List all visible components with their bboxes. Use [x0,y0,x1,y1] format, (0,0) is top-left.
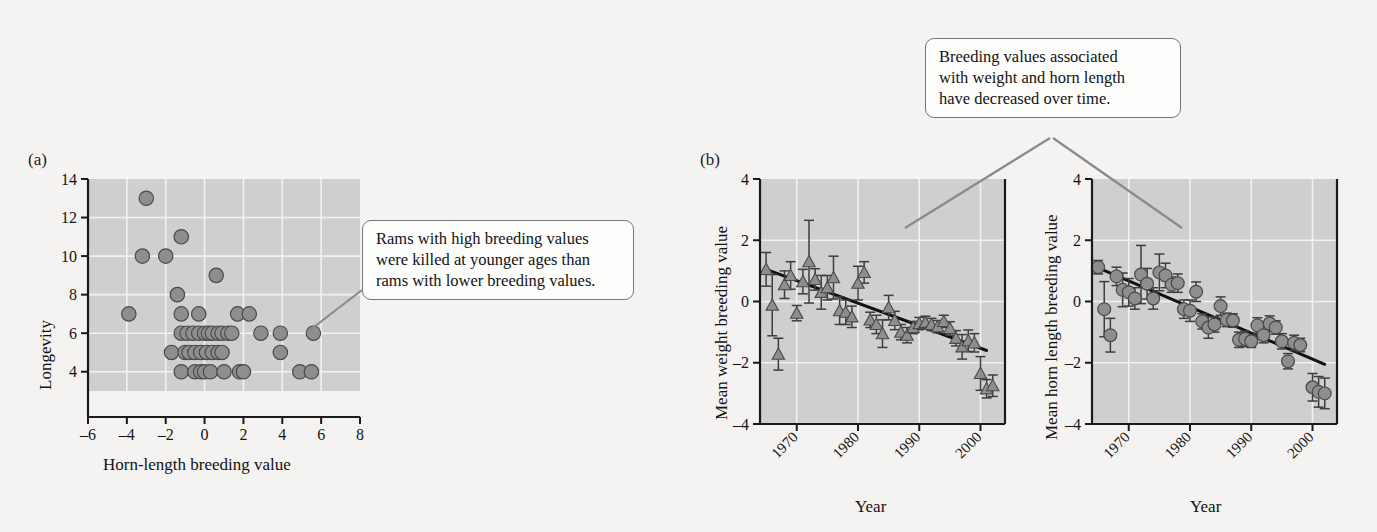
x-axis-tick-label: –6 [79,426,96,443]
callout-trend-line-3: have decreased over time. [939,88,1167,109]
data-point-marker [1110,270,1123,283]
y-axis-tick-label: 8 [69,286,77,303]
panel-b-horn-x-axis-title: Year [1190,497,1221,517]
data-point-marker [159,249,173,263]
callout-longevity-line-3: rams with lower breeding values. [376,270,620,291]
data-point-marker [122,307,136,321]
callout-longevity-line-1: Rams with high breeding values [376,228,620,249]
data-point-marker [174,230,188,244]
data-point-marker [1171,277,1184,290]
data-point-marker [1294,339,1307,352]
data-point-marker [1318,387,1331,400]
data-point-marker [215,345,229,359]
data-point-marker [254,326,268,340]
panel-a-y-axis-title: Longevity [36,320,56,390]
x-axis-tick-label: 1990 [1223,429,1256,462]
callout-trend-line-1: Breeding values associated [939,46,1167,67]
y-axis-tick-label: 12 [61,209,77,226]
scatter-longevity-horn-length: 468101214–6–4–202468 [60,165,390,455]
data-point-marker [225,326,239,340]
x-axis-tick-label: 2000 [952,429,985,462]
x-axis-tick-label: 2000 [1284,429,1317,462]
data-point-marker [1128,292,1141,305]
y-axis-tick-label: –4 [732,416,749,433]
x-axis-tick-label: 1990 [891,429,924,462]
data-point-marker [236,365,250,379]
data-point-marker [1214,300,1227,313]
panel-b-horn-y-axis-title: Mean horn length breeding value [1042,214,1062,440]
data-point-marker [1257,329,1270,342]
x-axis-tick-label: 1980 [1162,429,1195,462]
panel-a-label: (a) [28,150,47,170]
y-axis-tick-label: 4 [69,363,77,380]
data-point-marker [135,249,149,263]
data-point-marker [1269,321,1282,334]
data-point-marker [273,326,287,340]
y-axis-tick-label: 4 [1073,171,1081,188]
data-point-marker [192,307,206,321]
data-point-marker [170,287,184,301]
y-axis-tick-label: –2 [1064,354,1081,371]
y-axis-tick-label: 0 [741,293,749,310]
data-point-marker [1208,318,1221,331]
data-point-marker [139,191,153,205]
x-axis-tick-label: 8 [356,426,364,443]
y-axis-tick-label: 4 [741,171,749,188]
data-point-marker [1282,355,1295,368]
callout-longevity-line-2: were killed at younger ages than [376,249,620,270]
data-point-marker [1092,261,1105,274]
callout-longevity: Rams with high breeding values were kill… [362,220,634,300]
y-axis-tick-label: –2 [732,354,749,371]
panel-a-x-axis-title: Horn-length breeding value [103,455,291,475]
x-axis-tick-label: 1970 [1100,429,1133,462]
data-point-marker [242,307,256,321]
y-axis-tick-label: 10 [61,248,77,265]
data-point-marker [1184,304,1197,317]
y-axis-tick-label: –4 [1064,416,1081,433]
x-axis-tick-label: –2 [157,426,174,443]
figure-root: (a) Longevity Horn-length breeding value… [0,0,1377,532]
data-point-marker [217,365,231,379]
data-point-marker [1098,303,1111,316]
y-axis-tick-label: 6 [69,325,77,342]
data-point-marker [273,345,287,359]
data-point-marker [1245,335,1258,348]
data-point-marker [174,365,188,379]
chart-mean-horn-length-breeding-value: –4–20241970198019902000 [1062,165,1352,465]
data-point-marker [164,345,178,359]
panel-b-label: (b) [700,150,720,170]
x-axis-tick-label: –4 [118,426,135,443]
data-point-marker [1104,329,1117,342]
data-point-marker [1275,335,1288,348]
panel-b-weight-x-axis-title: Year [855,497,886,517]
data-point-marker [1190,285,1203,298]
x-axis-tick-label: 4 [278,426,286,443]
x-axis-tick-label: 0 [201,426,209,443]
data-point-marker [306,326,320,340]
data-point-marker [304,365,318,379]
callout-trend-line-2: with weight and horn length [939,67,1167,88]
x-axis-tick-label: 1980 [830,429,863,462]
data-point-marker [1226,314,1239,327]
data-point-marker [1141,277,1154,290]
y-axis-tick-label: 2 [741,232,749,249]
x-axis-tick-label: 2 [239,426,247,443]
data-point-marker [1147,292,1160,305]
data-point-marker [209,268,223,282]
y-axis-tick-label: 14 [61,171,77,188]
y-axis-tick-label: 0 [1073,293,1081,310]
callout-trend: Breeding values associated with weight a… [925,38,1181,118]
x-axis-tick-label: 1970 [768,429,801,462]
data-point-marker [174,307,188,321]
chart-mean-weight-breeding-value: –4–20241970198019902000 [730,165,1020,465]
data-point-marker [203,365,217,379]
y-axis-tick-label: 2 [1073,232,1081,249]
x-axis-tick-label: 6 [317,426,325,443]
panel-b-weight-y-axis-title: Mean weight breeding value [712,226,732,420]
